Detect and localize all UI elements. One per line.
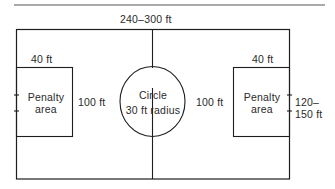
field-width-label-line2: 150 ft — [295, 108, 322, 120]
field-length-label: 240–300 ft — [120, 13, 172, 25]
right-penalty-name-line2: area — [236, 103, 288, 115]
right-penalty-depth-label: 40 ft — [252, 53, 273, 65]
left-penalty-width-label: 100 ft — [78, 96, 105, 108]
right-penalty-width-label: 100 ft — [196, 96, 223, 108]
left-penalty-depth-label: 40 ft — [31, 53, 52, 65]
left-penalty-name-line1: Penalty — [20, 91, 72, 103]
center-circle-label-line1: Circle — [118, 89, 188, 101]
right-penalty-name-line1: Penalty — [236, 91, 288, 103]
field-width-label-line1: 120– — [295, 96, 322, 108]
center-circle-label-line2: 30 ft radius — [118, 104, 188, 116]
right-penalty-name: Penalty area — [236, 91, 288, 115]
left-penalty-name-line2: area — [20, 103, 72, 115]
center-circle-label: Circle 30 ft radius — [118, 89, 188, 116]
left-penalty-name: Penalty area — [20, 91, 72, 115]
center-circle-mask — [151, 68, 154, 88]
field-width-label: 120– 150 ft — [295, 96, 322, 120]
